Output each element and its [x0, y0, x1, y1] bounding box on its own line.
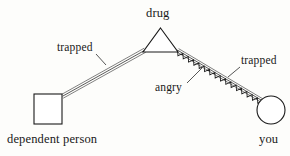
node-shape-drug [143, 28, 178, 52]
leader-line-angry [187, 68, 202, 83]
node-label-you: you [259, 133, 278, 146]
node-label-drug: drug [146, 7, 170, 20]
relation-label-angry: angry [155, 82, 182, 94]
node-shape-you [257, 96, 285, 124]
relation-label-trapped-right: trapped [241, 55, 277, 67]
relation-label-trapped-left: trapped [57, 42, 93, 54]
connector-dependent-to-drug [62, 48, 146, 98]
leader-line-trapped-left [96, 54, 106, 65]
genogram-diagram: drug trapped trapped angry dependent per… [0, 0, 290, 156]
node-shape-dependent-person [34, 94, 62, 124]
node-label-dependent-person: dependent person [7, 133, 97, 146]
leader-line-trapped-right [228, 67, 240, 77]
